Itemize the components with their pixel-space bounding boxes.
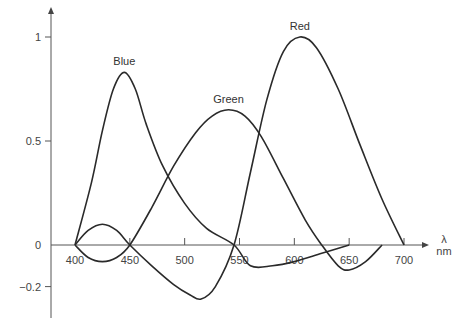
spectral-chart: 400450500550600650700−0.200.51λnm BlueGr… xyxy=(0,0,469,333)
y-tick-label: 0 xyxy=(35,239,41,251)
label-blue: Blue xyxy=(113,55,135,67)
curve-blue xyxy=(75,72,349,267)
x-axis-unit: nm xyxy=(436,245,451,257)
y-tick-label: 0.5 xyxy=(26,135,41,147)
x-tick-label: 650 xyxy=(340,254,358,266)
y-tick-label: 1 xyxy=(35,31,41,43)
x-axis-symbol: λ xyxy=(441,233,447,245)
x-tick-label: 450 xyxy=(121,254,139,266)
x-axis-arrow-icon xyxy=(422,242,429,248)
x-tick-label: 400 xyxy=(66,254,84,266)
x-tick-label: 700 xyxy=(395,254,413,266)
label-green: Green xyxy=(213,93,244,105)
x-tick-label: 550 xyxy=(230,254,248,266)
label-red: Red xyxy=(290,20,310,32)
axes: 400450500550600650700−0.200.51λnm xyxy=(19,7,451,318)
y-tick-label: −0.2 xyxy=(19,281,41,293)
series-labels: BlueGreenRed xyxy=(113,20,310,105)
y-axis-arrow-icon xyxy=(48,7,54,14)
curve-green xyxy=(75,110,382,270)
x-tick-label: 500 xyxy=(175,254,193,266)
